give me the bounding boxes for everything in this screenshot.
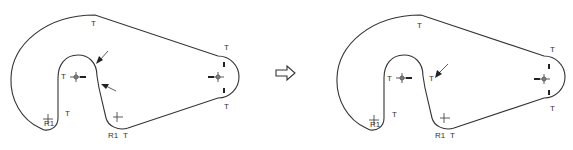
hollow-right-arrow-icon (276, 66, 295, 80)
label-tangent-inner-right: T (429, 74, 434, 83)
label-radius-right: R1 (435, 131, 446, 140)
label-tangent-bottom: T (123, 131, 128, 140)
label-tangent-right-bottom: T (224, 102, 229, 111)
center-mark-inner (70, 72, 86, 82)
center-mark-right (208, 62, 225, 93)
label-tangent-inner-left: T (387, 74, 392, 83)
diagram-canvas: T T T T T T R1 R1 (0, 0, 573, 150)
inner-arc-top-right-arrow (96, 51, 108, 64)
label-tangent-right-top: T (224, 43, 229, 52)
label-radius-left: R1 (370, 120, 381, 129)
label-tangent-inner-bottom: T (65, 109, 70, 118)
label-tangent-top: T (417, 21, 422, 30)
label-tangent-right-top: T (550, 45, 555, 54)
radius-mark-right (113, 112, 123, 122)
center-mark-right (534, 64, 550, 95)
label-tangent-inner-left: T (61, 72, 66, 81)
before-sketch: T T T T T T R1 R1 (11, 15, 239, 140)
center-mark-inner (396, 73, 412, 83)
label-tangent-right-bottom: T (550, 104, 555, 113)
inner-slot-right-arrow (101, 84, 116, 91)
inner-slot-right-arrow (435, 64, 448, 78)
after-profile (337, 15, 565, 130)
radius-mark-right (440, 113, 450, 123)
label-tangent-inner-bottom: T (392, 110, 397, 119)
label-tangent-bottom: T (450, 131, 455, 140)
label-radius-right: R1 (108, 131, 119, 140)
after-sketch: T T T T T T T R1 R1 (337, 15, 565, 140)
label-tangent-top: T (91, 19, 96, 28)
label-radius-left: R1 (44, 119, 55, 128)
before-profile (11, 15, 239, 130)
